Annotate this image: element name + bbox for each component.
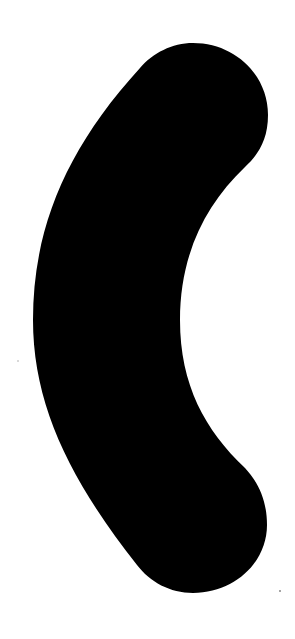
speck [17, 360, 19, 362]
crescent-shape-canvas [0, 0, 295, 639]
speck [279, 590, 281, 592]
